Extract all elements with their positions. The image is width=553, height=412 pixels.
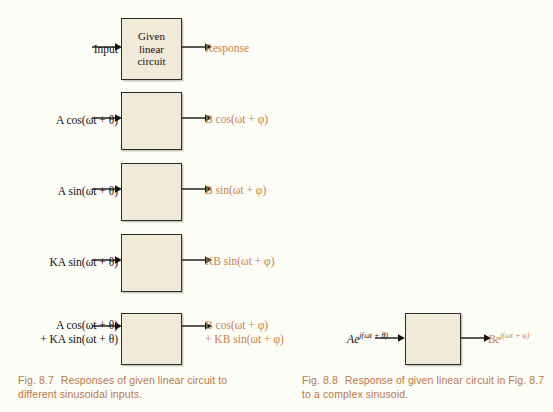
output-label-scaled-sine: KB sin(ωt + φ): [205, 254, 275, 268]
textbook-figure-page: Input Given linear circuit Response A co…: [0, 0, 553, 412]
caption-figure-number-8-8: Fig. 8.8: [302, 374, 338, 386]
output-label-complex-exponential: Bej(ωt + φ): [488, 332, 529, 346]
output-label-sine: B sin(ωt + φ): [205, 183, 266, 197]
input-base-complex: Ae: [347, 333, 359, 345]
output-label-cosine: B cos(ωt + φ): [205, 112, 268, 126]
circuit-block-complex: [405, 313, 461, 365]
input-arrow-superposition: [92, 321, 122, 331]
circuit-block-sine: [121, 163, 182, 221]
circuit-block-generic: Given linear circuit: [121, 18, 182, 80]
caption-figure-number-8-7: Fig. 8.7: [18, 374, 54, 386]
output-arrow-complex: [461, 333, 491, 343]
input-label-superposition-line2: + KA sin(ωt + θ): [6, 332, 118, 346]
caption-figure-8-7: Fig. 8.7Responses of given linear circui…: [18, 374, 268, 401]
circuit-block-label: Given linear circuit: [137, 30, 165, 68]
input-arrow-scaled-sine: [92, 255, 122, 265]
output-label-superposition-line1: B cos(ωt + φ): [205, 318, 268, 332]
circuit-block-scaled-sine: [121, 234, 182, 292]
input-arrow-generic: [92, 42, 122, 52]
output-label-generic: Response: [205, 41, 249, 55]
input-arrow-sine: [92, 184, 122, 194]
circuit-block-cosine: [121, 92, 182, 150]
caption-figure-8-8: Fig. 8.8Response of given linear circuit…: [302, 374, 550, 401]
output-label-superposition-line2: + KB sin(ωt + φ): [205, 332, 284, 346]
output-exponent-complex: j(ωt + φ): [500, 331, 529, 340]
input-arrow-complex: [375, 333, 405, 343]
circuit-block-superposition: [121, 313, 182, 365]
output-base-complex: Be: [488, 333, 500, 345]
caption-figure-text-8-8: Response of given linear circuit in Fig.…: [302, 374, 544, 400]
input-arrow-cosine: [92, 113, 122, 123]
